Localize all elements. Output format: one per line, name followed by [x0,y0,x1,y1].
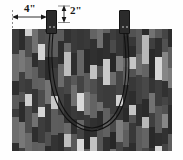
dimension-arrow-vertical [58,5,70,23]
handle-strap-icon [49,33,129,131]
figure-canvas: 4" 2" [0,0,183,160]
dimension-label-width: 4" [24,3,36,14]
overlay-vectors [0,0,183,160]
dimension-label-tab: 2" [70,5,82,16]
